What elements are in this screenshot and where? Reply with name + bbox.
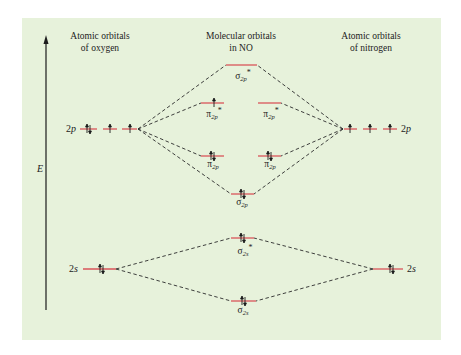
- sigma2s-star-label: σ2s*: [228, 242, 262, 259]
- header-nitrogen: Atomic orbitals of nitrogen: [331, 30, 411, 54]
- header-molecular-line2: in NO: [196, 42, 286, 54]
- header-nitrogen-line2: of nitrogen: [331, 42, 411, 54]
- header-oxygen-line1: Atomic orbitals: [60, 30, 140, 42]
- sigma2p-star-label: σ2p*: [228, 67, 258, 84]
- sigma2s-label: σ2s: [228, 305, 258, 318]
- sigma2p-label: σ2p: [227, 197, 257, 210]
- header-molecular-line1: Molecular orbitals: [196, 30, 286, 42]
- pi2p-right-label: π2p: [255, 159, 285, 172]
- oxygen-2s-label: 2s: [69, 263, 78, 274]
- header-oxygen: Atomic orbitals of oxygen: [60, 30, 140, 54]
- energy-axis-arrow: [44, 35, 49, 310]
- correlation-lines: [116, 65, 373, 301]
- header-oxygen-line2: of oxygen: [60, 42, 140, 54]
- nitrogen-2p-label: 2p: [401, 123, 411, 134]
- header-nitrogen-line1: Atomic orbitals: [331, 30, 411, 42]
- energy-axis-label: E: [37, 163, 43, 174]
- pi2p-left-label: π2p: [198, 159, 228, 172]
- oxygen-2p-label: 2p: [66, 123, 76, 134]
- nitrogen-2s-label: 2s: [407, 263, 416, 274]
- header-molecular: Molecular orbitals in NO: [196, 30, 286, 54]
- pi2p-star-left-label: π2p*: [199, 105, 229, 122]
- pi2p-star-right-label: π2p*: [256, 105, 286, 122]
